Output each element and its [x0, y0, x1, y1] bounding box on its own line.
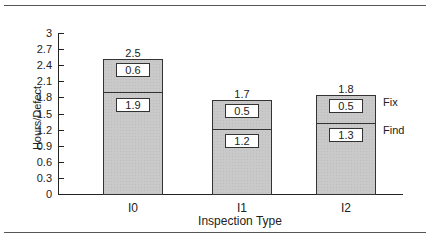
find-value-label: 1.9 — [116, 98, 150, 112]
bar-I2: 0.5 1.3 — [316, 95, 376, 195]
y-tick-label: 1.8 — [22, 91, 52, 103]
y-tick-mark — [58, 114, 64, 115]
bar-total-label: 2.5 — [103, 47, 163, 59]
fix-value-label: 0.5 — [225, 104, 259, 118]
find-value-label: 1.2 — [225, 134, 259, 148]
x-axis-title: Inspection Type — [170, 214, 310, 228]
frame-bottom-rule — [4, 232, 426, 233]
y-tick-label: 0 — [22, 188, 52, 200]
y-tick-mark — [58, 33, 64, 34]
bar-I0: 0.6 1.9 — [103, 59, 163, 195]
y-tick-label: 2.1 — [22, 75, 52, 87]
y-tick-mark — [58, 81, 64, 82]
bar-total-label: 1.8 — [316, 83, 376, 95]
y-tick-mark — [58, 146, 64, 147]
fix-value-label: 0.5 — [329, 99, 363, 113]
y-tick-label: 0.9 — [22, 140, 52, 152]
legend-fix: Fix — [383, 96, 398, 108]
y-tick-mark — [58, 49, 64, 50]
y-tick-label: 1.5 — [22, 108, 52, 120]
y-tick-mark — [58, 178, 64, 179]
y-tick-mark — [58, 130, 64, 131]
find-value-label: 1.3 — [329, 128, 363, 142]
y-tick-label: 0.3 — [22, 172, 52, 184]
x-category-label: I2 — [326, 201, 366, 215]
fix-value-label: 0.6 — [116, 63, 150, 77]
legend-find: Find — [383, 124, 404, 136]
x-category-label: I0 — [113, 201, 153, 215]
x-category-label: I1 — [222, 201, 262, 215]
bar-I1: 0.5 1.2 — [212, 100, 272, 195]
frame-top-rule — [4, 5, 426, 6]
y-tick-mark — [58, 162, 64, 163]
y-tick-label: 0.6 — [22, 156, 52, 168]
find-fix-divider — [104, 92, 162, 93]
y-tick-mark — [58, 97, 64, 98]
y-tick-label: 2.7 — [22, 43, 52, 55]
find-fix-divider — [317, 123, 375, 124]
bar-total-label: 1.7 — [212, 88, 272, 100]
y-tick-mark — [58, 65, 64, 66]
y-tick-label: 1.2 — [22, 124, 52, 136]
y-tick-label: 3 — [22, 27, 52, 39]
y-tick-mark — [58, 194, 64, 195]
find-fix-divider — [213, 129, 271, 130]
y-tick-label: 2.4 — [22, 59, 52, 71]
